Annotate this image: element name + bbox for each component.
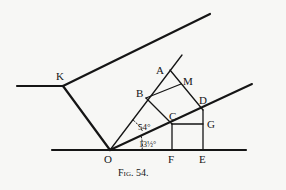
line-b-m [146,84,181,98]
label-g: G [207,118,215,130]
label-b: B [136,87,143,99]
angle-label-13-half: 13½° [139,140,156,149]
figure-caption: Fig. 54. [118,167,148,178]
ray-o-d [110,84,252,150]
label-o: O [104,153,112,165]
angle-label-54: 54° [138,122,151,132]
label-c: C [169,110,176,122]
label-k: K [56,70,64,82]
label-e: E [199,153,206,165]
label-a: A [156,64,164,76]
ray-o-a [110,55,182,150]
figure-54-diagram: K A M B D C G O F E 54° 13½° Fig. 54. [0,0,286,190]
label-f: F [168,153,174,165]
label-m: M [183,75,193,87]
label-d: D [199,94,207,106]
k-to-o-line [63,86,110,150]
